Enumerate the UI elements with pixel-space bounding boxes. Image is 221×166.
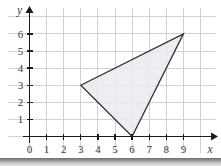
coordinate-plane-figure: 0123456789123456 x y (0, 0, 221, 166)
plot-svg: 0123456789123456 x y (0, 0, 221, 166)
x-tick-label-9: 9 (181, 143, 187, 155)
x-tick-label-0: 0 (27, 143, 33, 155)
x-axis-label: x (206, 143, 213, 155)
x-tick-label-6: 6 (129, 143, 135, 155)
x-tick-label-5: 5 (112, 143, 118, 155)
x-tick-label-2: 2 (61, 143, 67, 155)
y-tick-label-1: 1 (18, 113, 24, 125)
x-tick-label-8: 8 (164, 143, 170, 155)
x-tick-label-1: 1 (44, 143, 50, 155)
y-tick-label-4: 4 (18, 62, 24, 74)
y-tick-label-3: 3 (18, 79, 24, 91)
y-tick-label-6: 6 (18, 28, 24, 40)
x-tick-label-4: 4 (95, 143, 101, 155)
y-tick-label-5: 5 (18, 45, 24, 57)
bottom-edge-band (0, 158, 221, 166)
x-tick-label-7: 7 (146, 143, 152, 155)
y-tick-label-2: 2 (18, 96, 24, 108)
y-axis-label: y (16, 4, 23, 17)
x-tick-label-3: 3 (78, 143, 84, 155)
